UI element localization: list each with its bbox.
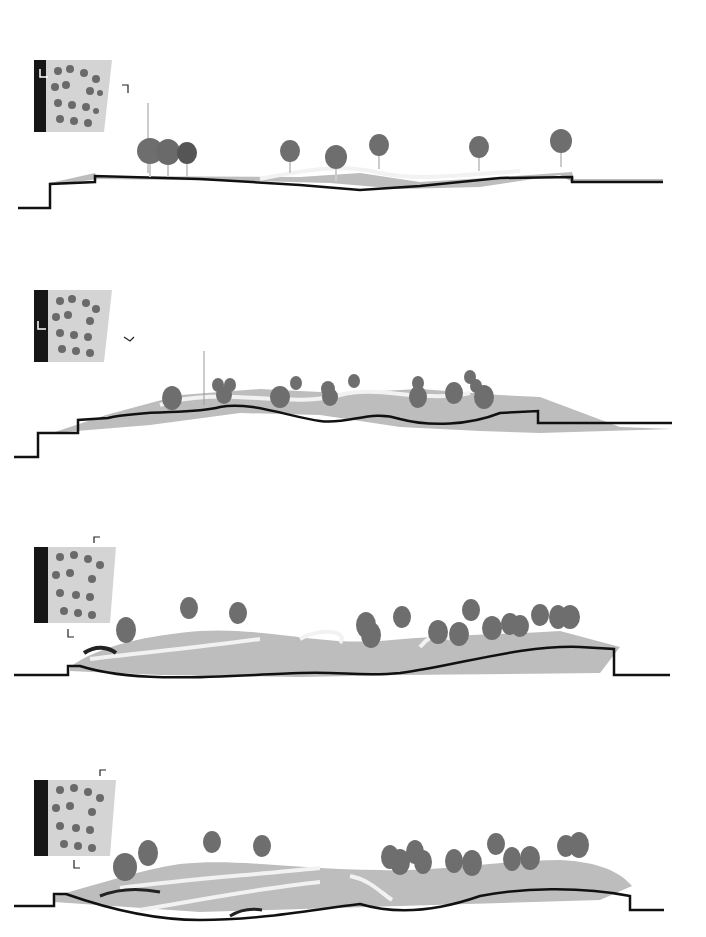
section-4-drawing [0,760,706,925]
key-plan-2 [34,290,134,362]
section-1-drawing [0,55,706,225]
key-plan-3 [34,537,116,637]
section-2 [0,285,706,465]
section-3 [0,535,706,685]
key-plan-1 [34,60,128,132]
section-1 [0,55,706,225]
section-3-drawing [0,535,706,685]
section-4 [0,760,706,925]
key-plan-4 [34,770,116,868]
section-2-drawing [0,285,706,465]
